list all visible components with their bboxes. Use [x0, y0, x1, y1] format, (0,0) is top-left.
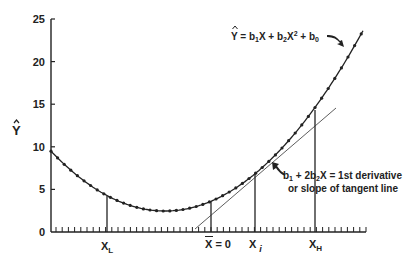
y-tick-25: 25 — [33, 13, 45, 25]
svg-text:X = 0: X = 0 — [205, 238, 231, 250]
x-marker-labels: XL X = 0 Xi XH — [101, 237, 322, 256]
svg-text:or slope of tangent line: or slope of tangent line — [288, 183, 398, 194]
label-x-mean: X = 0 — [205, 237, 231, 251]
svg-text:b1 + 2b2X = 1st derivative: b1 + 2b2X = 1st derivative — [283, 170, 402, 182]
y-tick-labels: 25 20 15 10 5 0 — [33, 13, 45, 238]
y-axis-title: Y — [12, 120, 21, 138]
label-x-low: XL — [101, 240, 113, 255]
y-tick-10: 10 — [33, 141, 45, 153]
y-tick-5: 5 — [39, 183, 45, 195]
label-x-i: Xi — [249, 238, 262, 254]
quadratic-regression-chart: 25 20 15 10 5 0 Y XL X = 0 Xi XH Y = b1 — [0, 0, 403, 264]
svg-text:Y: Y — [12, 123, 21, 138]
derivative-annotation: b1 + 2b2X = 1st derivative or slope of t… — [272, 162, 402, 194]
label-x-high: XH — [309, 238, 322, 253]
equation-annotation: Y = b1X + b2X2 + b0 — [231, 26, 344, 47]
y-tick-20: 20 — [33, 56, 45, 68]
y-tick-0: 0 — [39, 226, 45, 238]
curved-arrow-icon — [327, 35, 344, 47]
svg-text:Y = b1X + b2X2 + b0: Y = b1X + b2X2 + b0 — [231, 30, 319, 43]
y-tick-15: 15 — [33, 98, 45, 110]
